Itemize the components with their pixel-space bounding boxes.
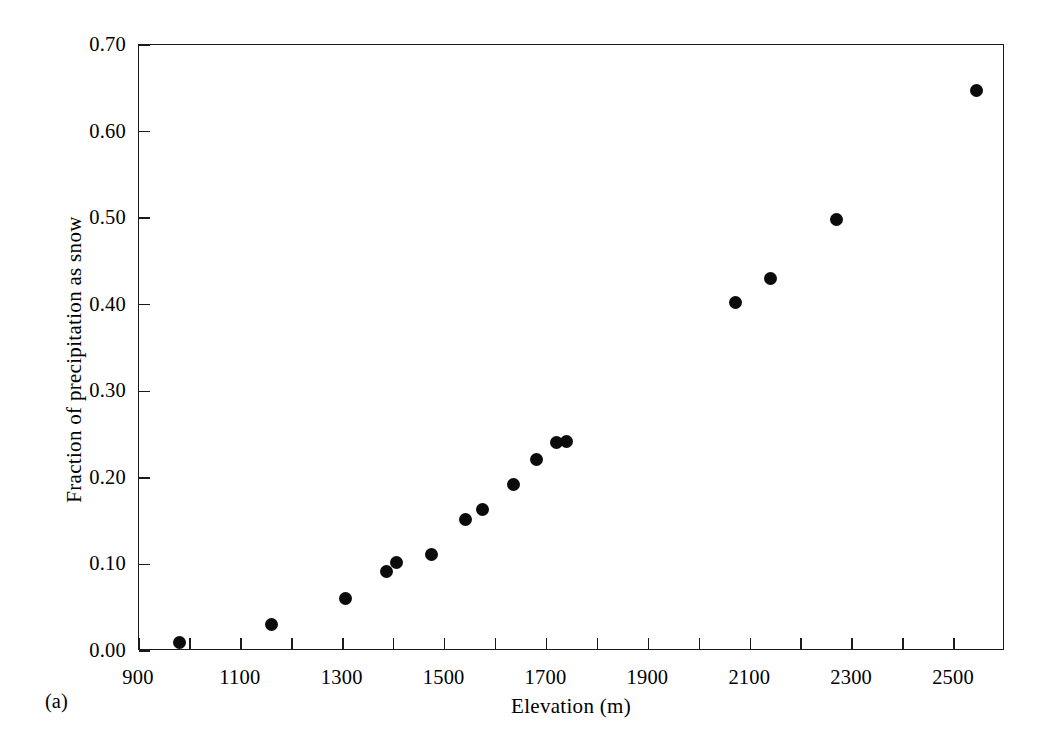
x-axis-tick-label: 1500 [423,667,465,687]
y-axis-tick [139,44,150,46]
data-point [530,453,543,466]
x-axis-tick [800,638,802,649]
x-axis-tick [189,638,191,649]
x-axis-tick-label: 2500 [932,667,974,687]
data-point [729,296,742,309]
x-axis-tick [953,638,955,649]
x-axis-tick [291,638,293,649]
x-axis-title: Elevation (m) [138,694,1004,719]
data-points-layer [139,45,1003,649]
x-axis-tick [240,638,242,649]
data-point [339,592,352,605]
data-point [425,548,438,561]
x-axis-tick [851,638,853,649]
x-axis-tick-label: 1100 [219,667,260,687]
x-axis-tick [750,638,752,649]
y-axis-title: Fraction of precipitation as snow [62,60,87,660]
x-axis-tick [597,638,599,649]
x-axis-tick-label: 1300 [321,667,363,687]
y-axis-tick [139,650,150,652]
x-axis-tick [648,638,650,649]
x-axis-tick [495,638,497,649]
y-axis-tick [139,564,150,566]
x-axis-tick [699,638,701,649]
data-point [507,478,520,491]
data-point [764,272,777,285]
x-axis-tick [138,638,140,649]
plot-frame [138,44,1004,650]
y-axis-tick [139,391,150,393]
data-point [830,213,843,226]
y-axis-tick-label: 0.70 [60,34,126,54]
x-axis-tick-label: 2300 [830,667,872,687]
data-point [970,84,983,97]
x-axis-tick [393,638,395,649]
scatter-figure: 90011001300150017001900210023002500 0.00… [0,0,1050,746]
x-axis-tick [342,638,344,649]
x-axis-tick-label: 2100 [728,667,770,687]
y-axis-tick [139,304,150,306]
y-axis-tick [139,131,150,133]
data-point [459,513,472,526]
x-axis-tick [546,638,548,649]
data-point [173,636,186,649]
y-axis-tick [139,477,150,479]
x-axis-tick-label: 1700 [525,667,567,687]
x-axis-tick [902,638,904,649]
panel-caption: (a) [45,690,68,713]
x-axis-tick [444,638,446,649]
data-point [476,503,489,516]
data-point [560,435,573,448]
x-axis-tick-label: 1900 [627,667,669,687]
data-point [390,556,403,569]
y-axis-tick [139,217,150,219]
x-axis-tick-label: 900 [122,667,153,687]
data-point [265,618,278,631]
